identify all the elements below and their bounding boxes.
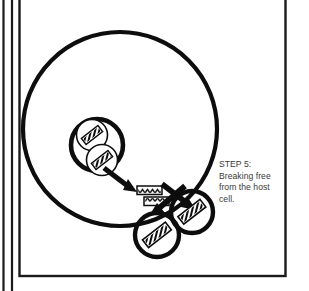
virus-replication-diagram <box>0 0 309 291</box>
virion-lower <box>87 145 118 176</box>
page-edge-rule <box>4 0 13 291</box>
figure-page: STEP 5: Breaking free from the host cell… <box>0 0 309 291</box>
arrow-nucleus-to-genome <box>104 168 137 192</box>
released-virion-lower-left <box>135 213 179 257</box>
step-caption: STEP 5: Breaking free from the host cell… <box>219 159 283 205</box>
viral-genome-strip-upper <box>137 186 162 195</box>
